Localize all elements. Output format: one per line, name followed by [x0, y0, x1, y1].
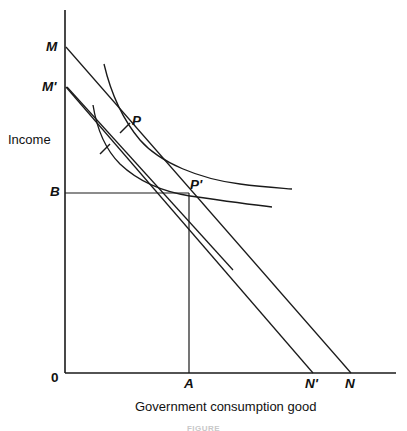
point-label-P: P	[132, 114, 141, 128]
figure-caption: FIGURE	[0, 424, 407, 431]
figure-container: M M' B Income 0 A N' N Government consum…	[0, 0, 407, 431]
steep-line-through-P-prime	[67, 87, 233, 270]
point-label-P-prime: P'	[190, 178, 202, 192]
x-label-A: A	[184, 377, 194, 391]
x-axis-title: Government consumption good	[135, 400, 316, 413]
budget-line-MN	[66, 47, 351, 373]
y-axis-title: Income	[8, 133, 51, 146]
y-label-M: M	[46, 40, 57, 54]
y-label-B: B	[50, 185, 60, 199]
y-label-M-prime: M'	[42, 80, 56, 94]
origin-label: 0	[51, 371, 59, 385]
indifference-curve-lower	[93, 105, 272, 207]
plot-canvas	[0, 0, 407, 431]
x-label-N: N	[345, 377, 355, 391]
tangency-tick-P	[120, 123, 130, 133]
x-label-N-prime: N'	[305, 377, 318, 391]
